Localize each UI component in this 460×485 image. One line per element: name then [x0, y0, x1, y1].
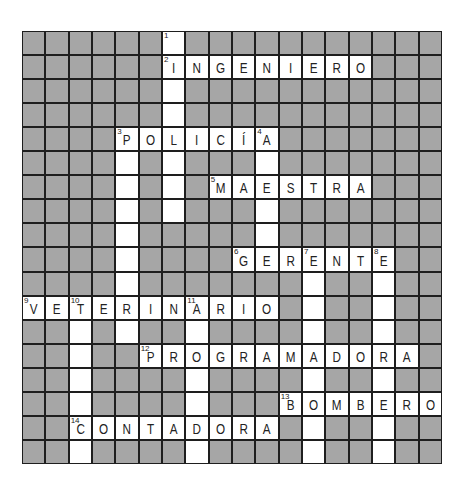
crossword-cell[interactable]: R	[396, 393, 417, 415]
crossword-cell[interactable]: N	[326, 248, 347, 270]
crossword-cell[interactable]	[373, 297, 394, 319]
crossword-cell[interactable]	[373, 273, 394, 295]
crossword-cell[interactable]: D	[186, 417, 207, 439]
crossword-cell[interactable]: O	[350, 345, 371, 367]
crossword-cell[interactable]: R	[210, 297, 231, 319]
crossword-cell[interactable]: N	[186, 56, 207, 78]
crossword-cell[interactable]	[303, 369, 324, 391]
crossword-cell[interactable]: O	[256, 297, 277, 319]
crossword-cell[interactable]	[116, 248, 137, 270]
crossword-cell[interactable]: A	[163, 417, 184, 439]
crossword-cell[interactable]: G	[210, 56, 231, 78]
crossword-cell[interactable]: 9V	[23, 297, 44, 319]
crossword-cell[interactable]: E	[46, 297, 67, 319]
crossword-cell[interactable]	[70, 441, 91, 463]
crossword-cell[interactable]: R	[280, 248, 301, 270]
crossword-cell[interactable]	[116, 152, 137, 174]
crossword-cell[interactable]: O	[420, 393, 441, 415]
crossword-cell[interactable]: 14C	[70, 417, 91, 439]
crossword-cell[interactable]	[303, 417, 324, 439]
crossword-cell[interactable]	[163, 152, 184, 174]
crossword-cell[interactable]	[373, 441, 394, 463]
crossword-cell[interactable]: O	[210, 417, 231, 439]
crossword-cell[interactable]: A	[396, 345, 417, 367]
crossword-cell[interactable]: O	[303, 393, 324, 415]
crossword-cell[interactable]	[163, 176, 184, 198]
crossword-cell[interactable]: E	[373, 393, 394, 415]
crossword-cell[interactable]: A	[256, 417, 277, 439]
crossword-cell[interactable]: A	[256, 345, 277, 367]
crossword-cell[interactable]	[186, 321, 207, 343]
crossword-cell[interactable]: I	[186, 128, 207, 150]
crossword-cell[interactable]: E	[256, 248, 277, 270]
crossword-cell[interactable]: O	[93, 417, 114, 439]
crossword-cell[interactable]: O	[140, 128, 161, 150]
crossword-cell[interactable]	[303, 441, 324, 463]
crossword-cell[interactable]: E	[256, 176, 277, 198]
crossword-cell[interactable]: I	[140, 297, 161, 319]
crossword-cell[interactable]: T	[140, 417, 161, 439]
crossword-cell[interactable]: C	[210, 128, 231, 150]
crossword-cell[interactable]	[256, 224, 277, 246]
crossword-cell[interactable]: B	[350, 393, 371, 415]
crossword-cell[interactable]: 10T	[70, 297, 91, 319]
crossword-cell[interactable]: N	[163, 297, 184, 319]
crossword-cell[interactable]	[373, 369, 394, 391]
crossword-cell[interactable]	[70, 393, 91, 415]
crossword-cell[interactable]: 5M	[210, 176, 231, 198]
crossword-cell[interactable]: R	[233, 345, 254, 367]
crossword-cell[interactable]: 2I	[163, 56, 184, 78]
crossword-cell[interactable]: O	[350, 56, 371, 78]
crossword-cell[interactable]: I	[233, 297, 254, 319]
crossword-cell[interactable]	[163, 104, 184, 126]
crossword-cell[interactable]	[186, 441, 207, 463]
crossword-cell[interactable]	[70, 321, 91, 343]
crossword-cell[interactable]: I	[280, 56, 301, 78]
crossword-cell[interactable]	[256, 152, 277, 174]
crossword-cell[interactable]: 4A	[256, 128, 277, 150]
crossword-cell[interactable]: A	[350, 176, 371, 198]
crossword-cell[interactable]: 3P	[116, 128, 137, 150]
crossword-cell[interactable]: M	[280, 345, 301, 367]
crossword-cell[interactable]: L	[163, 128, 184, 150]
crossword-cell[interactable]	[163, 200, 184, 222]
crossword-cell[interactable]	[116, 321, 137, 343]
crossword-cell[interactable]	[116, 224, 137, 246]
crossword-cell[interactable]: S	[280, 176, 301, 198]
crossword-cell[interactable]	[373, 321, 394, 343]
crossword-cell[interactable]: O	[186, 345, 207, 367]
crossword-cell[interactable]	[116, 200, 137, 222]
crossword-cell[interactable]: A	[303, 345, 324, 367]
crossword-cell[interactable]: N	[116, 417, 137, 439]
crossword-cell[interactable]: T	[303, 176, 324, 198]
crossword-cell[interactable]: R	[233, 417, 254, 439]
crossword-cell[interactable]: R	[116, 297, 137, 319]
crossword-cell[interactable]: Í	[233, 128, 254, 150]
crossword-cell[interactable]	[256, 200, 277, 222]
crossword-cell[interactable]	[186, 393, 207, 415]
crossword-cell[interactable]: R	[326, 176, 347, 198]
crossword-cell[interactable]	[303, 321, 324, 343]
crossword-cell[interactable]: E	[93, 297, 114, 319]
crossword-cell[interactable]	[116, 273, 137, 295]
crossword-cell[interactable]	[186, 369, 207, 391]
crossword-cell[interactable]	[70, 369, 91, 391]
crossword-cell[interactable]	[303, 273, 324, 295]
crossword-cell[interactable]: 1	[163, 32, 184, 54]
crossword-cell[interactable]: G	[210, 345, 231, 367]
crossword-cell[interactable]	[303, 297, 324, 319]
crossword-cell[interactable]: E	[233, 56, 254, 78]
crossword-cell[interactable]: 8E	[373, 248, 394, 270]
crossword-cell[interactable]	[373, 417, 394, 439]
crossword-cell[interactable]: 6G	[233, 248, 254, 270]
crossword-cell[interactable]: 11A	[186, 297, 207, 319]
crossword-cell[interactable]	[70, 345, 91, 367]
crossword-cell[interactable]: R	[163, 345, 184, 367]
crossword-cell[interactable]: M	[326, 393, 347, 415]
crossword-cell[interactable]: D	[326, 345, 347, 367]
crossword-cell[interactable]: N	[256, 56, 277, 78]
crossword-cell[interactable]: T	[350, 248, 371, 270]
crossword-cell[interactable]: 12P	[140, 345, 161, 367]
crossword-cell[interactable]: E	[303, 56, 324, 78]
crossword-cell[interactable]	[116, 176, 137, 198]
